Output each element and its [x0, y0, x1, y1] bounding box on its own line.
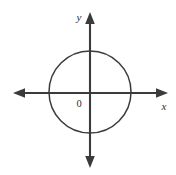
coordinate-plane-figure: y x 0	[0, 0, 176, 175]
x-axis-left-arrow-icon	[13, 88, 25, 98]
figure-canvas: y x 0	[0, 0, 176, 175]
origin-label: 0	[76, 98, 81, 109]
y-axis-bottom-arrow-icon	[85, 156, 95, 168]
x-axis-label: x	[161, 100, 167, 112]
x-axis-right-arrow-icon	[156, 88, 168, 98]
y-axis-label: y	[76, 11, 82, 23]
y-axis-top-arrow-icon	[85, 12, 95, 24]
